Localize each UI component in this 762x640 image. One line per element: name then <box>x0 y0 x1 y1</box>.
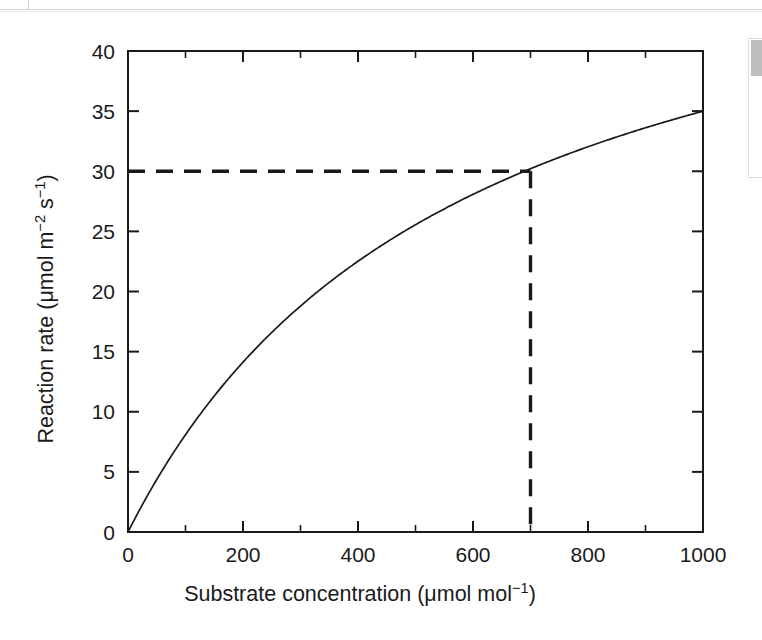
y-tick-label: 25 <box>92 220 115 243</box>
y-tick-label: 30 <box>92 160 115 183</box>
chart-plot-area: 0510152025303540 02004006008001000 <box>0 14 762 634</box>
x-tick-labels: 02004006008001000 <box>122 543 726 566</box>
page-top-rule-secondary <box>0 11 762 12</box>
data-series-curve <box>128 111 703 532</box>
reaction-rate-curve <box>128 111 703 532</box>
page-left-margin-tick <box>28 0 29 10</box>
x-tick-label: 0 <box>122 543 134 566</box>
page-top-rule <box>0 9 762 10</box>
axis-ticks <box>128 51 703 532</box>
axes-frame <box>128 51 703 532</box>
x-tick-label: 1000 <box>680 543 727 566</box>
x-tick-label: 200 <box>225 543 260 566</box>
y-tick-label: 15 <box>92 340 115 363</box>
y-tick-label: 40 <box>92 40 115 63</box>
y-axis-title: Reaction rate (μmol m−2 s−1) <box>32 49 59 569</box>
y-tick-label: 20 <box>92 280 115 303</box>
y-tick-labels: 0510152025303540 <box>92 40 115 544</box>
x-tick-label: 600 <box>455 543 490 566</box>
annotation-guide-lines <box>128 171 531 532</box>
chart-figure: 0510152025303540 02004006008001000 React… <box>0 14 762 634</box>
y-tick-label: 0 <box>103 521 115 544</box>
y-tick-label: 5 <box>103 460 115 483</box>
x-axis-title: Substrate concentration (μmol mol−1) <box>0 580 720 607</box>
y-tick-label: 10 <box>92 400 115 423</box>
x-tick-label: 400 <box>340 543 375 566</box>
y-tick-label: 35 <box>92 100 115 123</box>
x-tick-label: 800 <box>570 543 605 566</box>
